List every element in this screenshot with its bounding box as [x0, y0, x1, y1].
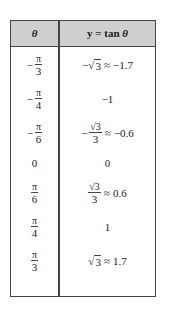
minus-sign: −	[27, 59, 33, 71]
fraction: π4	[31, 216, 38, 239]
theta-cell: 0	[11, 150, 58, 176]
decimal-value: −0.6	[114, 127, 134, 139]
denominator: 3	[36, 65, 42, 77]
header-y-tan-theta: y = tan θ	[60, 21, 155, 45]
tan-value-cell: √33 ≈ 0.6	[60, 176, 155, 210]
approx-sign: ≈	[104, 187, 110, 199]
numerator: π	[31, 182, 38, 193]
theta-cell: π4	[11, 210, 58, 244]
approx-sign: ≈	[105, 127, 111, 139]
table-header: θ y = tan θ	[11, 21, 155, 47]
fraction: √33	[88, 182, 101, 205]
radicand: 3	[94, 255, 101, 268]
decimal-value: 1.7	[113, 255, 127, 267]
value-text: 0	[32, 157, 38, 169]
numerator: π	[31, 216, 38, 227]
tan-value-cell: √3 ≈ 1.7	[60, 244, 155, 278]
denominator: 6	[32, 193, 38, 205]
tan-value-cell: −1	[60, 82, 155, 116]
fraction: √33	[89, 122, 102, 145]
radicand: 3	[95, 181, 100, 192]
fraction: π4	[35, 88, 42, 111]
sqrt-expression: √3	[88, 255, 101, 268]
theta-cell: − π4	[11, 82, 58, 116]
table-row: π4 1	[11, 210, 155, 244]
fraction: π6	[35, 122, 42, 145]
numerator: √3	[88, 182, 101, 193]
tan-value-cell: 0	[60, 150, 155, 176]
numerator: π	[35, 88, 42, 99]
decimal-value: 0.6	[113, 187, 127, 199]
tan-value-cell: − √3 ≈ −1.7	[60, 48, 155, 82]
theta-cell: − π3	[11, 48, 58, 82]
table-row: − π4 −1	[11, 82, 155, 116]
minus-sign: −	[81, 127, 87, 139]
theta-cell: π6	[11, 176, 58, 210]
table-row: − π3 − √3 ≈ −1.7	[11, 48, 155, 82]
denominator: 4	[36, 99, 42, 111]
tangent-values-table: θ y = tan θ − π3 − √3 ≈ −1.7 − π4 −1 − π…	[10, 20, 156, 297]
header-y-theta: θ	[122, 27, 128, 39]
fraction: π3	[31, 250, 38, 273]
value-text: 1	[105, 221, 111, 233]
table-row: 0 0	[11, 150, 155, 176]
numerator: π	[35, 122, 42, 133]
sqrt-expression: √3	[88, 59, 101, 72]
table-row: π3 √3 ≈ 1.7	[11, 244, 155, 278]
minus-sign: −	[27, 93, 33, 105]
tan-value-cell: 1	[60, 210, 155, 244]
radicand: 3	[96, 121, 101, 132]
theta-cell: − π6	[11, 116, 58, 150]
numerator: π	[31, 250, 38, 261]
approx-sign: ≈	[104, 255, 110, 267]
theta-cell: π3	[11, 244, 58, 278]
denominator: 3	[93, 133, 99, 145]
decimal-value: −1.7	[113, 59, 133, 71]
header-theta: θ	[11, 21, 58, 45]
minus-sign: −	[27, 127, 33, 139]
numerator: √3	[89, 122, 102, 133]
approx-sign: ≈	[104, 59, 110, 71]
denominator: 6	[36, 133, 42, 145]
fraction: π3	[35, 54, 42, 77]
table-row: − π6 − √33 ≈ −0.6	[11, 116, 155, 150]
radicand: 3	[94, 59, 101, 72]
denominator: 3	[92, 193, 98, 205]
denominator: 3	[32, 261, 38, 273]
value-text: 0	[105, 157, 111, 169]
value-text: −1	[102, 93, 114, 105]
header-y-label: y = tan	[87, 27, 122, 39]
denominator: 4	[32, 227, 38, 239]
tan-value-cell: − √33 ≈ −0.6	[60, 116, 155, 150]
fraction: π6	[31, 182, 38, 205]
table-row: π6 √33 ≈ 0.6	[11, 176, 155, 210]
numerator: π	[35, 54, 42, 65]
